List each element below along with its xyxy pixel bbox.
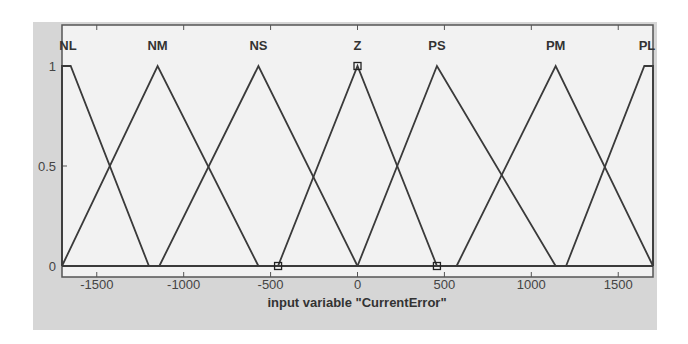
mf-label-nl: NL <box>59 38 76 53</box>
y-tick-label: 0.5 <box>38 159 56 174</box>
x-tick-label: 1500 <box>604 277 633 292</box>
mf-label-z: Z <box>354 38 362 53</box>
mf-label-ps: PS <box>428 38 446 53</box>
x-tick-label: 0 <box>354 277 361 292</box>
mf-label-nm: NM <box>147 38 167 53</box>
mf-label-pl: PL <box>639 38 656 53</box>
membership-function-plot: -1500-1000-50005001000150000.51 NLNMNSZP… <box>0 0 688 344</box>
x-tick-label: 500 <box>434 277 456 292</box>
mf-label-ns: NS <box>249 38 267 53</box>
y-tick-label: 0 <box>49 259 56 274</box>
x-tick-label: -1500 <box>80 277 113 292</box>
x-axis-label: input variable "CurrentError" <box>267 295 446 310</box>
x-tick-label: -500 <box>258 277 284 292</box>
x-tick-label: -1000 <box>167 277 200 292</box>
y-tick-label: 1 <box>49 59 56 74</box>
mf-label-pm: PM <box>546 38 566 53</box>
x-tick-label: 1000 <box>517 277 546 292</box>
